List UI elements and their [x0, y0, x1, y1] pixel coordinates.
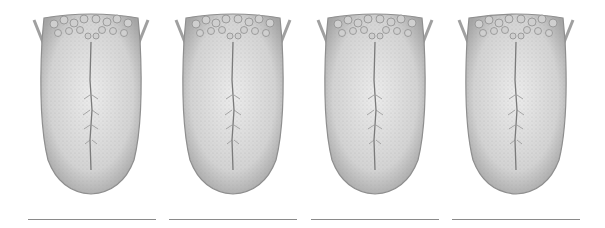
answer-line[interactable] — [452, 219, 580, 220]
answer-line[interactable] — [311, 219, 439, 220]
tongue-illustration — [22, 0, 162, 200]
answer-line[interactable] — [169, 219, 297, 220]
tongue-panel-2 — [164, 0, 314, 228]
tongue-illustration — [447, 0, 587, 200]
answer-line[interactable] — [28, 219, 156, 220]
tongue-illustration — [306, 0, 446, 200]
tongue-panel-3 — [306, 0, 456, 228]
tongue-panel-4 — [447, 0, 597, 228]
tongue-panel-1 — [22, 0, 172, 228]
tongue-illustration — [164, 0, 304, 200]
